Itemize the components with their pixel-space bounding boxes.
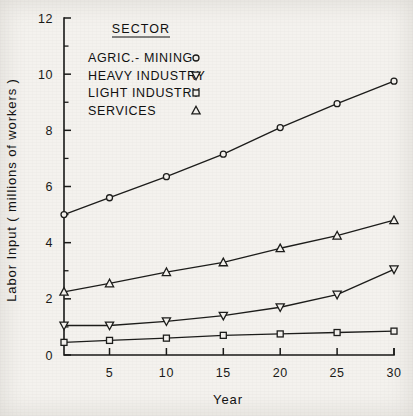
- chart-legend: SECTORAGRIC.- MININGHEAVY INDUSTRYLIGHT …: [88, 22, 205, 118]
- series-2: [60, 266, 398, 330]
- marker-square: [61, 339, 67, 345]
- x-tick-label: 5: [106, 366, 114, 380]
- marker-circle: [61, 212, 67, 218]
- marker-square: [193, 90, 199, 96]
- legend-title: SECTOR: [112, 22, 170, 36]
- marker-triangle-down: [390, 266, 398, 274]
- marker-circle: [334, 101, 340, 107]
- x-axis-title: Year: [213, 392, 243, 407]
- marker-circle: [163, 174, 169, 180]
- y-tick-label: 8: [45, 124, 53, 138]
- series-line: [64, 81, 394, 214]
- marker-square: [391, 328, 397, 334]
- series-3: [61, 328, 397, 345]
- marker-circle: [107, 195, 113, 201]
- x-tick-label: 10: [159, 366, 174, 380]
- series-line: [64, 220, 394, 292]
- legend-item-label: SERVICES: [88, 104, 156, 118]
- data-series-layer: [60, 78, 398, 345]
- marker-square: [277, 331, 283, 337]
- series-line: [64, 331, 394, 342]
- y-tick-label: 0: [45, 349, 53, 363]
- marker-square: [334, 330, 340, 336]
- marker-triangle-up: [390, 216, 398, 224]
- legend-item-label: HEAVY INDUSTRY: [88, 69, 205, 83]
- marker-square: [107, 337, 113, 343]
- y-tick-label: 4: [45, 236, 53, 250]
- x-axis-tick-labels: 51015202530: [106, 366, 402, 380]
- marker-circle: [193, 55, 199, 61]
- marker-circle: [391, 78, 397, 84]
- x-tick-label: 20: [273, 366, 288, 380]
- y-axis-tick-labels: 024681012: [38, 12, 53, 363]
- x-tick-label: 30: [386, 366, 401, 380]
- line-chart: 024681012 51015202530 SECTORAGRIC.- MINI…: [0, 0, 413, 416]
- marker-triangle-up: [192, 106, 200, 114]
- marker-circle: [220, 151, 226, 157]
- x-tick-label: 25: [330, 366, 345, 380]
- y-tick-label: 6: [45, 180, 53, 194]
- chart-figure: 024681012 51015202530 SECTORAGRIC.- MINI…: [0, 0, 413, 416]
- legend-item-label: LIGHT INDUSTRY: [88, 86, 201, 100]
- x-tick-label: 15: [216, 366, 231, 380]
- y-axis-title: Labor Input ( millions of workers ): [4, 78, 19, 302]
- legend-item-label: AGRIC.- MINING: [88, 51, 193, 65]
- marker-circle: [277, 125, 283, 131]
- series-4: [60, 216, 398, 295]
- y-tick-label: 10: [38, 68, 53, 82]
- marker-square: [163, 335, 169, 341]
- y-tick-label: 2: [45, 292, 53, 306]
- y-tick-label: 12: [38, 12, 53, 26]
- marker-square: [220, 332, 226, 338]
- series-line: [64, 269, 394, 325]
